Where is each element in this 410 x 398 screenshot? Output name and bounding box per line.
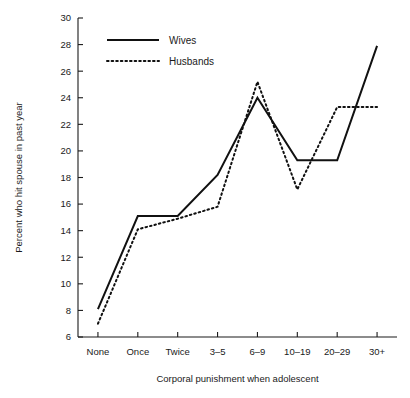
y-tick-label: 30 [60,12,71,23]
line-chart-canvas: 681012141618202224262830 NoneOnceTwice3–… [0,0,410,398]
x-tick-label: 30+ [369,346,386,357]
y-tick-label: 12 [60,252,71,263]
y-tick-label: 8 [66,305,71,316]
x-tick-label: Twice [166,346,190,357]
y-tick-label: 24 [60,92,71,103]
x-axis-ticks [98,332,377,337]
x-tick-label: 3–5 [210,346,226,357]
y-tick-label: 22 [60,119,71,130]
y-tick-label: 10 [60,278,71,289]
series-line-husbands [98,82,377,324]
x-tick-label: None [87,346,110,357]
chart-legend: WivesHusbands [107,35,214,67]
y-tick-label: 16 [60,198,71,209]
x-axis-tick-labels: NoneOnceTwice3–56–910–1920–2930+ [87,346,386,357]
series-line-wives [98,46,377,309]
y-tick-label: 18 [60,172,71,183]
x-tick-label: 20–29 [324,346,350,357]
data-series-group [98,46,377,324]
legend-label-wives: Wives [169,35,196,46]
x-axis-title: Corporal punishment when adolescent [156,373,318,384]
x-tick-label: 10–19 [284,346,310,357]
y-tick-label: 20 [60,145,71,156]
y-tick-label: 28 [60,39,71,50]
y-axis-tick-labels: 681012141618202224262830 [60,12,71,342]
y-tick-label: 6 [66,331,71,342]
y-axis-title: Percent who hit spouse in past year [13,102,24,253]
axes-group [78,18,397,337]
x-tick-label: 6–9 [250,346,266,357]
legend-label-husbands: Husbands [169,56,214,67]
y-tick-label: 26 [60,66,71,77]
y-axis-ticks [78,18,83,337]
x-tick-label: Once [126,346,149,357]
y-tick-label: 14 [60,225,71,236]
chart-figure: 681012141618202224262830 NoneOnceTwice3–… [0,0,410,398]
